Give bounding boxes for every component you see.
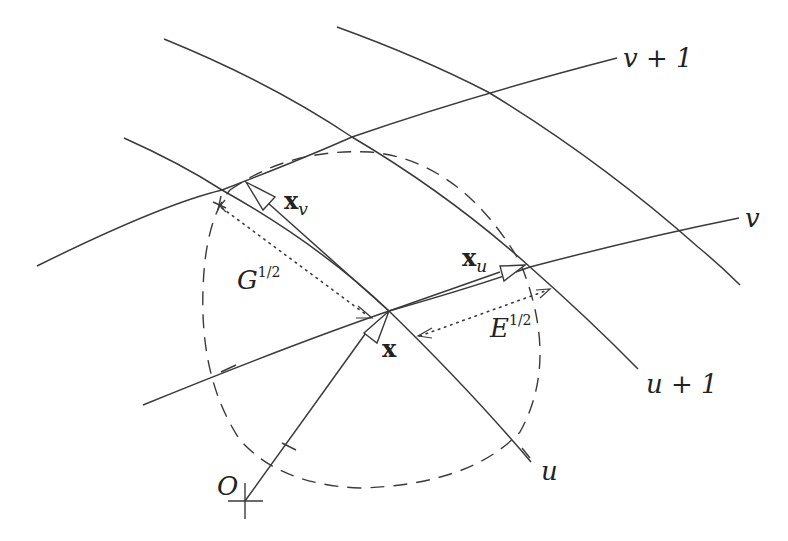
label-v-plus-1: v + 1 [623,43,693,73]
coordinate-curves [37,27,740,462]
label-origin: O [217,471,238,501]
g-half-measure [220,200,372,318]
label-g-half: G1/2 [237,264,280,295]
label-u: u [541,456,558,486]
label-v: v [745,203,760,233]
label-e-half: E1/2 [489,312,532,343]
tangent-vector-xv [246,182,389,311]
curve-u-plus-1 [164,39,638,369]
label-u-plus-1: u + 1 [646,369,718,399]
curve-u [124,138,531,462]
label-point-x: x [382,334,397,363]
tangent-vector-xu [389,265,525,311]
labels: v + 1 v u + 1 u O x xv xu G1/2 E1/2 [217,43,760,501]
curve-v-plus-1 [37,58,617,266]
surface-coordinate-diagram: v + 1 v u + 1 u O x xv xu G1/2 E1/2 [0,0,788,541]
position-vector-x [245,311,389,501]
label-xv: xv [284,186,308,219]
label-xu: xu [462,243,487,276]
